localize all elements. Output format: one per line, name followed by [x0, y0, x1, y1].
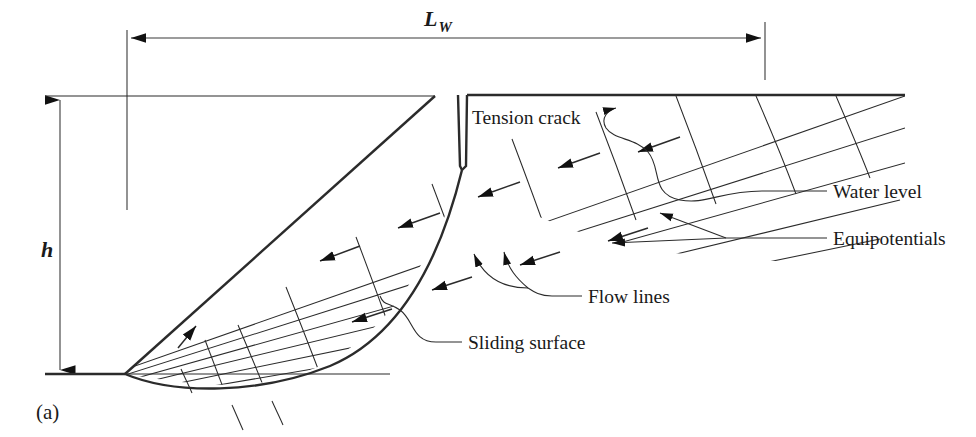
flow-direction-arrows	[178, 137, 680, 348]
equipotential-stubs-outside	[181, 369, 283, 430]
flow-direction-arrow-icon	[398, 213, 440, 228]
label-flow-lines: Flow lines	[588, 286, 670, 307]
label-equipotentials: Equipotentials	[833, 228, 946, 249]
dimension-label-Lw-main: L	[423, 6, 437, 31]
flow-direction-arrow-icon	[638, 137, 680, 152]
flow-direction-arrow-icon	[320, 246, 360, 261]
equipotential-line	[238, 325, 277, 420]
equipotential-stub	[272, 401, 283, 425]
flow-direction-arrow-icon	[432, 277, 472, 290]
horizontal-dimension-Lw: LW	[127, 6, 765, 210]
flow-direction-arrow-icon	[520, 252, 560, 265]
leader-flow-lines-branch-left	[474, 254, 528, 288]
flow-direction-arrow-icon	[608, 228, 648, 241]
label-water-level: Water level	[833, 181, 922, 202]
slope-face-line	[125, 96, 435, 374]
figure-canvas: LW h	[0, 0, 976, 437]
equipotential-line	[756, 96, 796, 194]
equipotential-line	[836, 96, 870, 178]
flow-direction-arrow-icon	[478, 182, 520, 197]
sliding-surface-arc	[125, 170, 462, 389]
label-tension-crack: Tension crack	[472, 107, 581, 128]
equipotential-line	[512, 139, 552, 248]
label-sliding-surface: Sliding surface	[468, 332, 586, 353]
flow-line	[136, 239, 880, 392]
equipotential-line	[676, 96, 716, 204]
sliding-surface-group	[125, 170, 462, 389]
dimension-label-Lw-sub: W	[438, 19, 453, 35]
callout-water-level: Water level	[604, 108, 923, 202]
flow-direction-arrow-icon	[178, 326, 196, 348]
tension-crack-right-wall	[462, 95, 467, 170]
dimension-label-Lw: LW	[423, 6, 453, 35]
vertical-dimension-h: h	[41, 100, 60, 370]
tension-crack-left-wall	[458, 95, 462, 170]
equipotential-line	[432, 184, 472, 292]
equipotential-stub	[232, 405, 243, 430]
leader-flow-lines-stem	[528, 288, 582, 296]
callout-flow-lines: Flow lines	[474, 252, 670, 307]
leader-flow-lines-branch-right	[504, 252, 528, 288]
flow-direction-arrow-icon	[558, 153, 600, 168]
figure-caption: (a)	[36, 400, 59, 424]
flow-net	[118, 96, 905, 424]
callout-tension-crack: Tension crack	[472, 107, 581, 128]
leader-equipotentials-branch-upper	[660, 213, 726, 238]
flow-line	[130, 200, 900, 386]
flow-line	[118, 96, 905, 372]
slope-flow-net-figure: LW h	[0, 0, 976, 437]
tension-crack-group	[458, 95, 467, 170]
flow-direction-arrow-icon	[352, 309, 392, 322]
dimension-label-h: h	[41, 237, 53, 262]
equipotential-line	[205, 340, 237, 424]
slope-face	[125, 96, 435, 374]
callout-sliding-surface: Sliding surface	[380, 296, 586, 353]
equipotential-line	[596, 112, 636, 220]
